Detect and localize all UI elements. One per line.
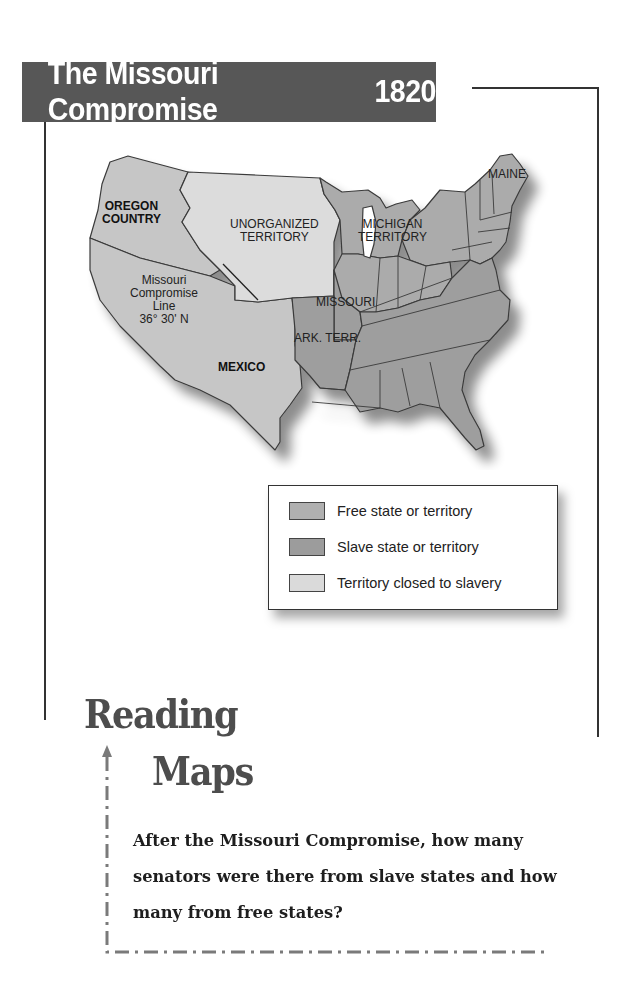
legend-swatch-slave — [289, 538, 325, 556]
label-ark-terr: ARK. TERR. — [294, 332, 361, 345]
legend-swatch-free — [289, 502, 325, 520]
label-michigan-territory: MICHIGAN TERRITORY — [358, 218, 427, 244]
label-unorganized-territory: UNORGANIZED TERRITORY — [230, 218, 319, 244]
reading-maps-title-line1: Reading — [84, 690, 237, 737]
map-legend: Free state or territory Slave state or t… — [268, 485, 558, 610]
reading-maps-question: After the Missouri Compromise, how many … — [133, 822, 579, 930]
label-compromise-line: Missouri Compromise Line 36° 30' N — [130, 274, 198, 326]
map-year: 1820 — [374, 74, 436, 110]
legend-item-free: Free state or territory — [289, 502, 472, 520]
legend-item-closed: Territory closed to slavery — [289, 574, 501, 592]
label-missouri: MISSOURI — [316, 296, 375, 309]
label-oregon-country: OREGON COUNTRY — [102, 200, 161, 226]
legend-swatch-closed — [289, 574, 325, 592]
map-title-bar: The Missouri Compromise 1820 — [22, 62, 436, 122]
frame-border-left — [44, 122, 46, 720]
us-map-1820: OREGON COUNTRY UNORGANIZED TERRITORY MIC… — [80, 150, 560, 470]
label-maine: MAINE — [488, 168, 526, 181]
label-mexico: MEXICO — [218, 361, 265, 374]
map-title: The Missouri Compromise — [48, 56, 351, 128]
frame-border-right — [597, 87, 599, 737]
frame-border-top — [472, 87, 598, 89]
legend-item-slave: Slave state or territory — [289, 538, 479, 556]
